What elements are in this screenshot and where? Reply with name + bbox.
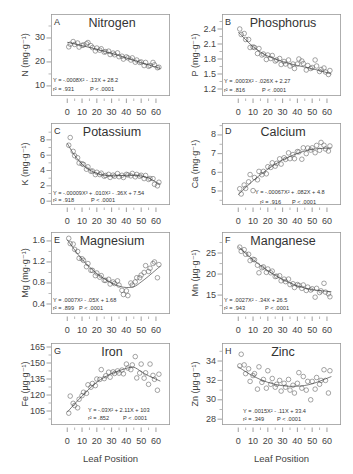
x-tick-label: 60 (317, 325, 337, 336)
regression-line (238, 148, 331, 195)
data-point (297, 370, 302, 375)
y-tick-label: 0.4 (21, 299, 45, 310)
y-tick-label: 7 (192, 148, 216, 159)
data-point (279, 62, 284, 67)
regression-equation: Y = .0007X² - .05X + 1.68 (53, 297, 116, 304)
r-squared: r² = .916 (260, 199, 281, 206)
panel-title: Manganese (233, 234, 333, 248)
data-point (130, 363, 135, 368)
data-point (86, 382, 91, 387)
x-tick-label: 60 (146, 436, 166, 447)
data-point (134, 376, 139, 381)
r-squared: r² = .816 (224, 87, 245, 94)
panel-letter: G (54, 346, 61, 356)
p-value: P < .0001 (262, 87, 286, 94)
y-tick-label: 15 (192, 290, 216, 301)
y-tick-label: 34 (192, 356, 216, 367)
panel-letter: D (225, 126, 232, 136)
data-point (279, 162, 284, 167)
data-point (292, 391, 297, 396)
data-point (146, 382, 151, 387)
y-tick-label: 1.5 (192, 69, 216, 80)
data-point (121, 371, 126, 376)
p-value: P < .0001 (123, 415, 147, 422)
r-squared: r² = .852 (88, 415, 109, 422)
panel-potassium: K (mg·g⁻¹)024680102030405060CPotassiumY … (51, 123, 170, 205)
data-point (75, 406, 80, 411)
p-value: P < .0001 (79, 305, 103, 312)
r-squared: r² = .349 (243, 416, 264, 423)
x-axis-label-right: Leaf Position (222, 452, 341, 466)
data-point (126, 173, 131, 178)
data-point (242, 31, 247, 36)
data-point (328, 68, 333, 73)
panel-title: Potassium (62, 125, 162, 139)
data-point (242, 363, 247, 368)
y-tick-label: 6 (192, 167, 216, 178)
p-value: P < .0001 (277, 416, 301, 423)
data-point (255, 51, 260, 56)
figure: N (mg·g⁻¹)1020300102030405060ANitrogenY … (0, 0, 353, 474)
panel-magnesium: Mg (mg·g⁻¹)0.40.81.21.60102030405060EMag… (51, 232, 170, 314)
data-point (292, 285, 297, 290)
data-point (243, 371, 248, 376)
panel-title: Nitrogen (62, 16, 162, 30)
panel-title: Magnesium (62, 234, 162, 248)
data-point (68, 394, 73, 399)
data-point (310, 286, 315, 291)
data-point (155, 388, 160, 393)
y-tick-label: 1.6 (21, 235, 45, 246)
data-point (239, 192, 244, 197)
data-point (264, 386, 269, 391)
data-point (295, 381, 300, 386)
panel-letter: B (225, 17, 231, 27)
y-tick-label: 105 (21, 406, 45, 417)
data-point (300, 386, 305, 391)
panel-title: Zinc (233, 345, 333, 359)
y-tick-label: 10 (21, 80, 45, 91)
r-squared: r² = .918 (53, 197, 74, 204)
y-tick-label: 20 (21, 56, 45, 67)
regression-equation: Y = .0015X² - .11X + 33.4 (243, 408, 306, 415)
panel-letter: C (54, 126, 61, 136)
y-tick-label: 2.4 (192, 24, 216, 35)
data-point (86, 40, 91, 45)
data-point (246, 366, 251, 371)
data-point (286, 277, 291, 282)
panel-title: Calcium (233, 125, 333, 139)
y-tick-label: 20 (192, 269, 216, 280)
y-tick-label: 28 (192, 414, 216, 425)
data-point (111, 173, 116, 178)
panel-manganese: Mn (µg·g⁻¹)1520250102030405060FManganese… (222, 232, 341, 314)
regression-equation: Y = -.00009X³ + .010X² - .36X + 7.54 (53, 190, 144, 197)
data-point (326, 391, 331, 396)
data-point (288, 388, 293, 393)
y-tick-label: 1.2 (21, 256, 45, 267)
data-point (286, 377, 291, 382)
data-point (304, 68, 309, 73)
data-point (266, 368, 271, 373)
data-point (137, 275, 142, 280)
y-tick-label: 2.1 (192, 39, 216, 50)
panel-nitrogen: N (mg·g⁻¹)1020300102030405060ANitrogenY … (51, 14, 170, 96)
regression-equation: Y = -.0008X² - .13X + 28.2 (53, 77, 118, 84)
panel-title: Phosphorus (233, 16, 333, 30)
data-point (292, 156, 297, 161)
data-point (106, 277, 111, 282)
panel-letter: A (54, 17, 60, 27)
data-point (115, 279, 120, 284)
data-point (139, 362, 144, 367)
r-squared: r² = .943 (224, 305, 245, 312)
data-point (124, 289, 129, 294)
y-tick-label: 8 (21, 134, 45, 145)
data-point (313, 58, 318, 63)
data-point (237, 186, 242, 191)
y-tick-label: 4 (21, 165, 45, 176)
data-point (328, 368, 333, 373)
panel-letter: H (225, 346, 232, 356)
y-tick-label: 6 (21, 150, 45, 161)
y-tick-label: 1.8 (192, 54, 216, 65)
p-value: P < .0001 (90, 86, 114, 93)
data-point (157, 262, 162, 267)
data-point (155, 275, 160, 280)
